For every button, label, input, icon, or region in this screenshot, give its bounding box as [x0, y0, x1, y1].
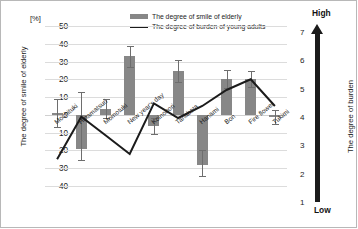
y2-tick-label: 2 — [300, 169, 304, 178]
y2-tick-label: 7 — [300, 28, 304, 37]
y2-tick-label: 5 — [300, 84, 304, 93]
right-axis-title: The degree of burden — [346, 57, 355, 177]
right-axis-high-label: High — [312, 8, 331, 18]
line-path — [57, 79, 275, 159]
unit-label: [%] — [30, 14, 41, 23]
legend-bar-label: The degree of smile of elderly — [152, 13, 242, 20]
y2-tick-label: 6 — [300, 56, 304, 65]
gridline — [45, 186, 287, 187]
right-axis-low-label: Low — [314, 205, 331, 215]
left-axis-title: The degree of smile of elderly — [19, 22, 28, 172]
y2-tick-label: 1 — [300, 198, 304, 207]
chart-figure: [%] The degree of smile of elderly The d… — [0, 0, 358, 229]
right-axis: High 7654321 The degree of burden Low — [296, 0, 358, 229]
y2-tick-label: 4 — [300, 113, 304, 122]
legend-item-bar: The degree of smile of elderly — [130, 13, 265, 20]
up-arrow-shaft-icon — [315, 32, 320, 202]
legend-bar-swatch — [130, 14, 148, 19]
y2-tick-label: 3 — [300, 141, 304, 150]
